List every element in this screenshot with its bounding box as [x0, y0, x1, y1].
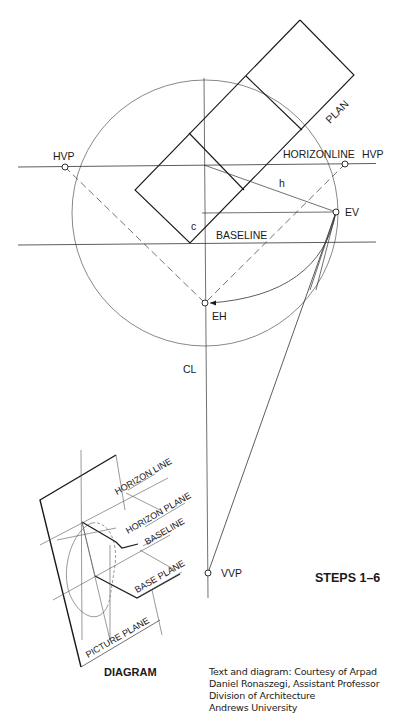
inset-horizon-line-label: HORIZON LINE: [113, 456, 173, 497]
cl-label: CL: [183, 363, 197, 375]
credit-line: Division of Architecture: [209, 690, 379, 702]
inset-diagram: HORIZON LINE HORIZON PLANE BASELINE BASE…: [40, 450, 193, 678]
inset-picture-plane-label: PICTURE PLANE: [84, 615, 151, 659]
baseline-line: [18, 242, 376, 245]
credit-line: Text and diagram: Courtesy of Arpad: [209, 666, 379, 678]
eh-label: EH: [212, 310, 227, 322]
dashed-line-left: [65, 167, 205, 303]
picture-plane: [40, 455, 116, 667]
h-label: h: [279, 177, 285, 189]
hvp-left-point: [62, 164, 68, 170]
hvp-right-point: [342, 161, 348, 167]
vvp-point: [205, 570, 211, 576]
inset-base-plane-label: BASE PLANE: [133, 558, 187, 595]
hvp-right-label: HVP: [362, 148, 384, 160]
baseline-label: BASELINE: [216, 229, 267, 241]
eh-point: [202, 300, 208, 306]
vvp-label: VVP: [221, 567, 242, 579]
hvp-left-label: HVP: [53, 150, 75, 162]
c-line: [202, 212, 336, 213]
horizon-line: [18, 164, 376, 168]
c-label: c: [191, 220, 196, 232]
horizon-line-label: HORIZONLINE: [283, 148, 355, 160]
ev-point: [333, 209, 339, 215]
arrow-head: [210, 301, 216, 306]
plan-rectangle: [135, 20, 354, 243]
credit-line: Andrews University: [209, 702, 379, 714]
h-line: [204, 165, 336, 212]
inset-diagram-title: DIAGRAM: [104, 666, 157, 678]
credit-block: Text and diagram: Courtesy of Arpad Dani…: [209, 666, 379, 714]
ev-fan-line-2: [316, 212, 336, 290]
ev-label: EV: [345, 206, 359, 218]
plan-label: PLAN: [323, 98, 351, 126]
center-line: [204, 78, 208, 598]
rotation-arc: [210, 212, 336, 303]
credit-line: Daniel Ronaszegi, Assistant Professor: [209, 678, 379, 690]
steps-label: STEPS 1–6: [315, 571, 380, 585]
ev-to-vvp-line: [208, 212, 336, 573]
